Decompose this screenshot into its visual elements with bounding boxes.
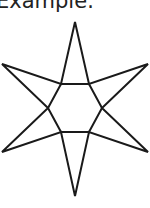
star-outline — [2, 22, 148, 196]
six-pointed-star-figure — [0, 0, 150, 208]
inner-hexagon — [48, 84, 102, 132]
